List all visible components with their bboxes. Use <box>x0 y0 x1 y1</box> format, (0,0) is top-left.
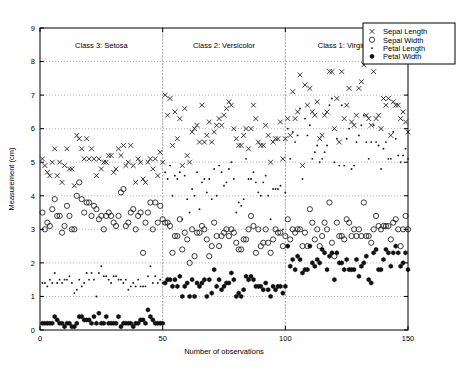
data-point <box>324 151 326 153</box>
data-point <box>363 114 365 116</box>
data-point <box>337 140 342 145</box>
data-point <box>275 188 277 190</box>
data-point <box>86 272 88 274</box>
data-point <box>251 277 255 282</box>
data-point <box>71 282 73 284</box>
star-marker-core <box>95 322 97 324</box>
data-point <box>370 141 372 143</box>
data-point <box>50 160 55 165</box>
data-point <box>40 210 45 215</box>
star-marker-core <box>328 255 330 257</box>
data-point <box>297 134 299 136</box>
data-point <box>79 197 84 202</box>
data-point <box>260 195 262 197</box>
data-point <box>403 213 408 218</box>
data-point <box>345 257 349 262</box>
data-point <box>204 237 209 242</box>
data-point <box>366 116 371 121</box>
data-point <box>65 146 70 151</box>
star-marker-core <box>371 55 373 57</box>
data-point <box>266 240 271 245</box>
data-point <box>304 118 306 120</box>
data-point <box>89 146 94 151</box>
star-marker-core <box>382 258 384 260</box>
data-point <box>148 200 153 205</box>
legend[interactable]: Sepal LengthSepal WidthPetal LengthPetal… <box>363 23 455 64</box>
data-point <box>374 213 379 218</box>
data-point <box>114 321 118 326</box>
star-marker-core <box>218 279 220 281</box>
data-point <box>280 156 285 161</box>
y-tick-label: 2 <box>31 259 35 268</box>
data-point <box>161 321 165 326</box>
data-point <box>172 195 174 197</box>
data-point <box>182 230 187 235</box>
data-point <box>192 254 197 259</box>
data-point <box>306 134 308 136</box>
series-sepal-width <box>40 180 411 266</box>
data-point <box>246 146 251 151</box>
y-tick-label: 7 <box>31 91 35 100</box>
data-point <box>278 284 282 289</box>
data-point <box>307 207 312 212</box>
data-point <box>374 247 378 252</box>
data-point <box>95 295 97 297</box>
x-axis-label: Number of observations <box>184 347 264 356</box>
data-point <box>270 218 272 220</box>
data-point <box>111 170 116 175</box>
data-point <box>277 188 279 190</box>
data-point <box>217 277 221 282</box>
data-point <box>40 156 45 161</box>
star-marker-core <box>137 322 139 324</box>
star-marker-core <box>319 262 321 264</box>
data-point <box>168 96 173 101</box>
star-marker-core <box>400 265 402 267</box>
data-point <box>168 277 172 282</box>
data-point <box>283 233 288 238</box>
data-point <box>223 185 225 187</box>
data-point <box>100 265 102 267</box>
data-point <box>386 96 391 101</box>
data-point <box>322 113 327 118</box>
star-marker-core <box>130 322 132 324</box>
data-point <box>55 173 60 178</box>
data-point <box>195 123 200 128</box>
data-point <box>68 275 70 277</box>
star-marker-core <box>321 248 323 250</box>
data-point <box>285 116 290 121</box>
data-point <box>67 213 72 218</box>
star-marker-core <box>103 322 105 324</box>
data-point <box>77 180 82 185</box>
data-point <box>87 156 92 161</box>
data-point <box>322 220 327 225</box>
star-marker-core <box>56 319 58 321</box>
y-tick-label: 9 <box>31 24 35 33</box>
data-point <box>46 285 48 287</box>
star-marker-core <box>262 289 264 291</box>
data-point <box>146 160 151 165</box>
data-point <box>110 282 112 284</box>
series-petal-width <box>40 244 410 329</box>
data-point <box>221 171 223 173</box>
data-point <box>288 133 293 138</box>
data-point <box>88 279 90 281</box>
data-point <box>352 267 356 272</box>
data-point <box>381 257 385 262</box>
star-marker-core <box>228 282 230 284</box>
star-marker-core <box>54 315 56 317</box>
data-point <box>315 99 320 104</box>
data-point <box>101 160 106 165</box>
data-point <box>123 163 128 168</box>
data-point <box>326 144 328 146</box>
data-point <box>309 124 311 126</box>
data-point <box>280 244 285 249</box>
data-point <box>329 104 331 106</box>
data-point <box>211 198 213 200</box>
star-marker-core <box>164 282 166 284</box>
data-point <box>137 279 139 281</box>
data-point <box>175 284 179 289</box>
data-point <box>390 158 392 160</box>
data-point <box>311 158 313 160</box>
data-point <box>270 237 275 242</box>
data-point <box>323 251 327 256</box>
